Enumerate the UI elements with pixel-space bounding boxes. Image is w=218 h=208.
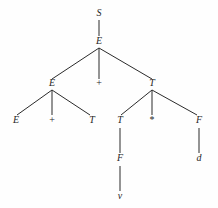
tree-edge-layer — [17, 20, 199, 191]
tree-node-layer: SEE+TE+TT*FFdv — [12, 7, 203, 201]
tree-node-n9: * — [150, 114, 155, 125]
tree-node-n0: S — [97, 7, 102, 18]
parse-tree-figure: SEE+TE+TT*FFdv — [0, 0, 218, 208]
tree-node-n11: F — [116, 152, 124, 163]
tree-edge — [17, 90, 52, 115]
tree-edge — [152, 90, 197, 115]
tree-node-n4: T — [149, 77, 156, 88]
tree-node-n1: E — [95, 35, 102, 46]
tree-node-n12: d — [197, 152, 203, 163]
tree-node-n7: T — [89, 114, 96, 125]
tree-edge — [52, 90, 90, 115]
tree-edge — [52, 48, 99, 79]
tree-node-n3: + — [96, 77, 102, 88]
tree-node-n13: v — [118, 190, 123, 201]
tree-node-n10: F — [195, 114, 203, 125]
tree-node-n6: + — [49, 114, 55, 125]
tree-node-n2: E — [48, 77, 55, 88]
tree-edge — [99, 48, 152, 79]
tree-node-n8: T — [117, 114, 124, 125]
tree-node-n5: E — [12, 114, 19, 125]
tree-edge — [121, 90, 152, 115]
parse-tree-canvas: SEE+TE+TT*FFdv — [0, 0, 218, 208]
